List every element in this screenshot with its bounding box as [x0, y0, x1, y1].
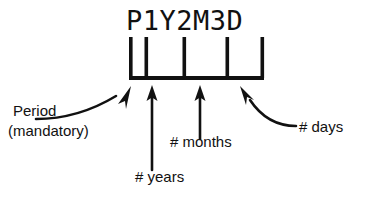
label-period-mandatory: (mandatory) — [8, 122, 89, 140]
comb-tick-1 — [129, 37, 133, 78]
months-arrow — [195, 85, 206, 139]
label-months: # months — [170, 133, 232, 151]
label-days: # days — [299, 118, 343, 136]
comb-baseline — [129, 76, 264, 80]
comb-tick-4 — [226, 37, 230, 78]
years-arrow — [147, 85, 158, 170]
days-arrow — [240, 86, 296, 126]
label-years: # years — [135, 168, 184, 186]
duration-format-diagram: P1Y2M3D Peri — [0, 0, 375, 199]
comb-tick-2 — [145, 37, 149, 78]
label-period: Period — [13, 102, 56, 120]
comb-tick-3 — [183, 37, 187, 78]
comb-tick-5 — [261, 37, 265, 78]
comb-and-arrows-graphic — [0, 0, 375, 199]
comb-bracket — [129, 37, 264, 80]
